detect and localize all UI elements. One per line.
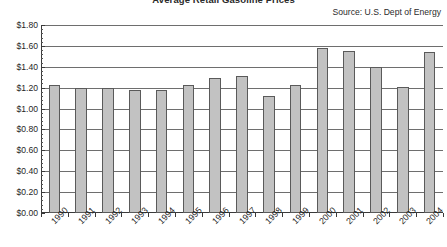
bar-2001 [343, 51, 355, 213]
y-axis-tick-label: $1.80 [0, 20, 38, 30]
bar-series [41, 25, 443, 213]
y-axis-tick-label: $1.00 [0, 104, 38, 114]
y-axis-labels: $1.80$1.60$1.40$1.20$1.00$0.80$0.60$0.40… [0, 25, 38, 213]
y-axis-tick-label: $1.20 [0, 83, 38, 93]
bar-2003 [397, 87, 409, 213]
bar-1993 [129, 90, 141, 213]
bar-1998 [263, 96, 275, 213]
bar-2000 [317, 48, 329, 213]
bar-1995 [183, 85, 195, 213]
y-axis-tick-label: $1.60 [0, 41, 38, 51]
y-axis-tick-label: $0.00 [0, 208, 38, 218]
bar-1997 [236, 76, 248, 213]
x-axis-labels: 1990199119921993199419951996199719981999… [41, 213, 443, 247]
y-axis-tick-label: $0.60 [0, 145, 38, 155]
chart-title: Average Retail Gasoline Prices [0, 0, 447, 5]
y-axis-tick-label: $1.40 [0, 62, 38, 72]
bar-1991 [75, 88, 87, 213]
y-axis-tick-label: $0.40 [0, 166, 38, 176]
bar-1992 [102, 88, 114, 213]
y-axis-tick-label: $0.20 [0, 187, 38, 197]
y-axis-tick-label: $0.80 [0, 124, 38, 134]
bar-2004 [424, 52, 436, 213]
bar-1999 [290, 85, 302, 213]
source-annotation: Source: U.S. Dept of Energy [333, 7, 441, 17]
bar-1990 [49, 85, 61, 213]
bar-2002 [370, 67, 382, 213]
bar-1996 [209, 78, 221, 213]
gasoline-price-bar-chart: Average Retail Gasoline Prices Source: U… [0, 0, 447, 247]
bar-1994 [156, 90, 168, 213]
